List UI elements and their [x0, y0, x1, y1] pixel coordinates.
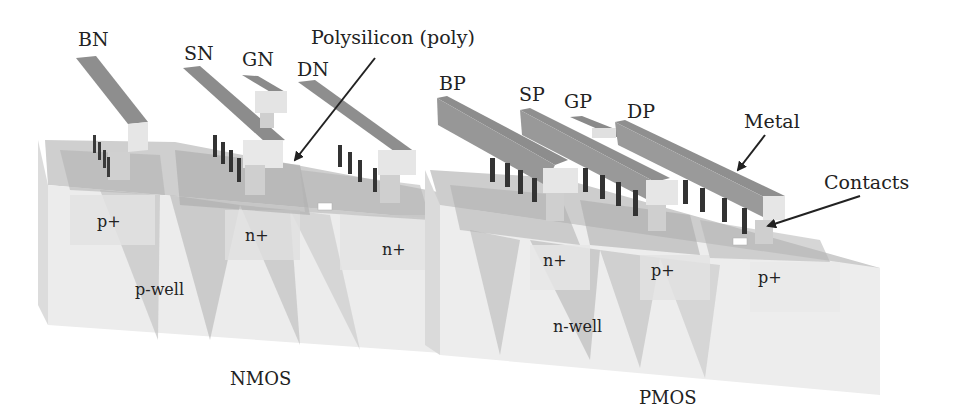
- terminal-label-bn: BN: [78, 30, 109, 49]
- metal-arrow: [738, 135, 765, 170]
- terminal-label-gn: GN: [242, 50, 274, 69]
- region-n-well: n-well: [553, 319, 602, 335]
- terminal-label-dn: DN: [297, 60, 329, 79]
- terminal-label-gp: GP: [564, 92, 592, 111]
- callout-polysilicon: Polysilicon (poly): [311, 28, 475, 47]
- cmos-3d-diagram: BN SN GN DN BP SP GP DP Polysilicon (pol…: [0, 0, 980, 419]
- terminal-label-sp: SP: [519, 85, 545, 104]
- region-nmos-drain-n-plus: n+: [382, 242, 406, 258]
- callout-contacts: Contacts: [824, 173, 909, 192]
- callout-metal: Metal: [744, 112, 800, 131]
- terminal-label-sn: SN: [184, 44, 214, 63]
- device-label-nmos: NMOS: [230, 370, 291, 388]
- region-p-well: p-well: [135, 282, 184, 298]
- device-label-pmos: PMOS: [639, 389, 697, 407]
- region-pmos-n-plus: n+: [543, 253, 567, 269]
- structure-drawing: [0, 0, 980, 419]
- terminal-label-dp: DP: [627, 102, 655, 121]
- region-nmos-source-n-plus: n+: [245, 228, 269, 244]
- region-pmos-source-p-plus: p+: [651, 263, 675, 279]
- region-pmos-drain-p-plus: p+: [758, 270, 782, 286]
- terminal-label-bp: BP: [439, 74, 466, 93]
- region-nmos-p-plus: p+: [97, 214, 121, 230]
